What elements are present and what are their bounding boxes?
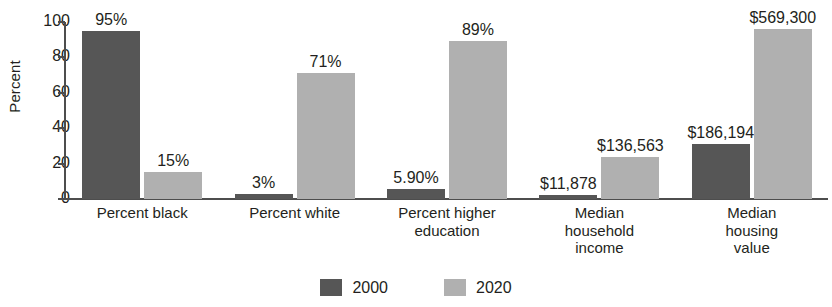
category-label-line: household — [523, 222, 675, 240]
bar-value-label: 89% — [462, 22, 494, 38]
bar-2000: 95% — [82, 31, 140, 199]
legend-swatch-icon — [444, 279, 466, 296]
bar-group: 3%71% — [218, 22, 370, 199]
legend-item-2000[interactable]: 2000 — [320, 279, 388, 296]
category-label-line: Median — [676, 204, 828, 222]
category-label-line: Percent white — [218, 204, 370, 222]
x-axis-category-labels: Percent blackPercent whitePercent higher… — [66, 204, 828, 270]
legend-item-2020[interactable]: 2020 — [444, 279, 512, 296]
legend-swatch-icon — [320, 279, 342, 296]
bar-value-label: $11,878 — [540, 176, 597, 192]
bar-2000: 5.90% — [387, 189, 445, 199]
category-label-line: education — [371, 222, 523, 240]
y-axis-title: Percent — [6, 27, 23, 147]
category-label-line: value — [676, 239, 828, 257]
bar-2000: $11,878 — [539, 195, 597, 199]
bar-2000: $186,194 — [692, 144, 750, 199]
plot-area: 95%15%3%71%5.90%89%$11,878$136,563$186,1… — [66, 22, 828, 199]
category-label: Medianhouseholdincome — [523, 204, 675, 257]
bar-value-label: 95% — [95, 12, 127, 28]
bar-value-label: 71% — [310, 54, 342, 70]
bar-2020: 71% — [297, 73, 355, 199]
bar-2000: 3% — [235, 194, 293, 199]
grouped-bar-chart: Percent 020406080100 95%15%3%71%5.90%89%… — [0, 0, 832, 307]
bar-2020: 15% — [144, 172, 202, 199]
category-label: Percent white — [218, 204, 370, 222]
bar-group: 95%15% — [66, 22, 218, 199]
category-label-line: housing — [676, 222, 828, 240]
bar-value-label: 5.90% — [393, 170, 438, 186]
category-label: Medianhousingvalue — [676, 204, 828, 257]
bar-2020: $136,563 — [601, 157, 659, 199]
category-label-line: Percent black — [66, 204, 218, 222]
bar-2020: 89% — [449, 41, 507, 199]
category-label: Percent highereducation — [371, 204, 523, 239]
legend-label: 2020 — [476, 280, 512, 296]
category-label: Percent black — [66, 204, 218, 222]
chart-legend: 20002020 — [0, 279, 832, 296]
bar-value-label: $136,563 — [597, 138, 664, 154]
category-label-line: income — [523, 239, 675, 257]
bar-value-label: $569,300 — [749, 10, 816, 26]
bar-value-label: $186,194 — [687, 125, 754, 141]
bar-group: 5.90%89% — [371, 22, 523, 199]
bar-value-label: 15% — [157, 153, 189, 169]
bar-group: $11,878$136,563 — [523, 22, 675, 199]
category-label-line: Percent higher — [371, 204, 523, 222]
legend-label: 2000 — [352, 280, 388, 296]
category-label-line: Median — [523, 204, 675, 222]
bar-value-label: 3% — [252, 175, 275, 191]
bar-group: $186,194$569,300 — [676, 22, 828, 199]
bar-2020: $569,300 — [754, 29, 812, 199]
